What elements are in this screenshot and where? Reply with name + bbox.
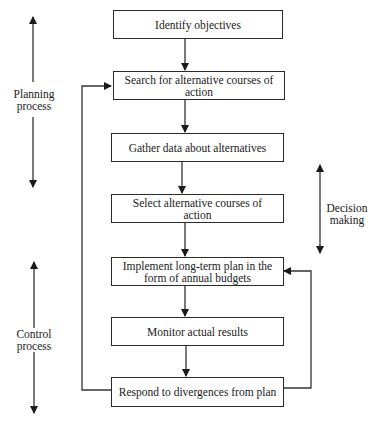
step-identify-objectives: Identify objectives bbox=[113, 10, 283, 39]
step-label: Respond to divergences from plan bbox=[119, 386, 277, 398]
decision-making-label: Decision making bbox=[322, 202, 372, 226]
step-monitor-results: Monitor actual results bbox=[111, 317, 284, 346]
step-implement-plan: Implement long-term plan in the form of … bbox=[111, 257, 284, 286]
step-label: Select alternative courses of action bbox=[118, 197, 277, 221]
step-search-alternatives: Search for alternative courses of action bbox=[113, 71, 285, 100]
step-label: Search for alternative courses of action bbox=[120, 74, 278, 98]
step-respond-divergences: Respond to divergences from plan bbox=[111, 377, 284, 407]
step-gather-data: Gather data about alternatives bbox=[111, 133, 284, 162]
step-select-alternative: Select alternative courses of action bbox=[111, 194, 284, 223]
step-label: Identify objectives bbox=[155, 19, 241, 31]
step-label: Implement long-term plan in the form of … bbox=[118, 260, 277, 284]
planning-process-label: Planning process bbox=[8, 88, 60, 112]
step-label: Gather data about alternatives bbox=[129, 142, 267, 154]
planning-control-diagram: Identify objectives Search for alternati… bbox=[0, 0, 376, 423]
step-label: Monitor actual results bbox=[147, 326, 248, 338]
control-process-label: Control process bbox=[10, 328, 58, 352]
